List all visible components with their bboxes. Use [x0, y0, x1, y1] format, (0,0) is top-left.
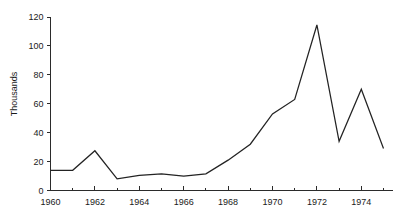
y-tick-label: 40: [33, 128, 43, 138]
x-tick-label: 1962: [85, 197, 105, 207]
y-tick-label: 20: [33, 157, 43, 167]
x-tick-label: 1970: [262, 197, 282, 207]
y-tick-label: 60: [33, 99, 43, 109]
chart-canvas: 020406080100120 Thousands 19601962196419…: [0, 0, 399, 222]
y-tick-label: 80: [33, 70, 43, 80]
x-tick-label: 1968: [218, 197, 238, 207]
x-tick-label: 1972: [307, 197, 327, 207]
y-axis-title: Thousands: [9, 71, 19, 116]
line-chart: 020406080100120 Thousands 19601962196419…: [0, 0, 399, 222]
y-tick-label: 120: [28, 12, 43, 22]
x-tick-label: 1964: [129, 197, 149, 207]
x-tick-label: 1974: [351, 197, 371, 207]
y-tick-label: 0: [38, 186, 43, 196]
y-tick-label: 100: [28, 41, 43, 51]
x-tick-label: 1966: [174, 197, 194, 207]
x-tick-label: 1960: [40, 197, 60, 207]
